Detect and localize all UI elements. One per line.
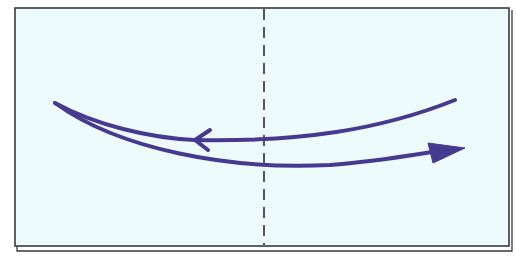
paper-sheet [15, 8, 509, 246]
folding-diagram [0, 0, 516, 265]
